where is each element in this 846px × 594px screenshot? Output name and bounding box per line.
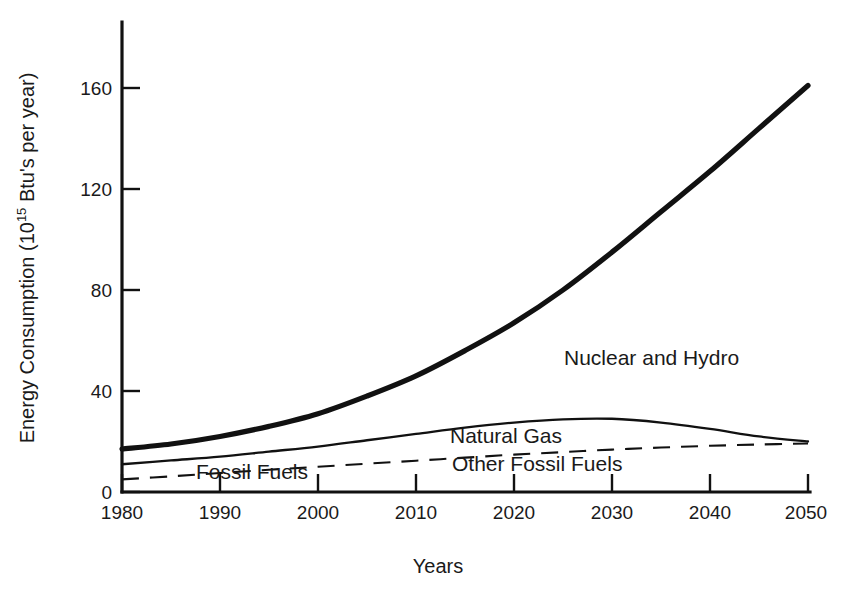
- x-tick-label-2010: 2010: [395, 502, 437, 523]
- x-tick-label-2030: 2030: [591, 502, 633, 523]
- y-axis-title: Energy Consumption (1015 Btu's per year): [14, 73, 38, 444]
- series-annotation-fossil-fuels: Fossil Fuels: [196, 460, 308, 483]
- series-annotation-natural-gas: Natural Gas: [450, 424, 562, 447]
- energy-consumption-chart: 160 120 80 40 0 1980 1990 2000 2010 2020…: [0, 0, 846, 594]
- y-tick-label-160: 160: [80, 78, 112, 99]
- series-line-nuclear-and-hydro: [122, 85, 808, 449]
- x-tick-label-2020: 2020: [493, 502, 535, 523]
- x-tick-label-2050: 2050: [785, 502, 827, 523]
- series-annotation-nuclear-and-hydro: Nuclear and Hydro: [564, 346, 739, 369]
- y-tick-label-40: 40: [91, 381, 112, 402]
- x-tick-label-2000: 2000: [297, 502, 339, 523]
- x-axis-title: Years: [413, 555, 463, 577]
- y-axis-title-post: Btu's per year): [16, 73, 38, 208]
- y-axis-title-exponent: 15: [14, 208, 29, 222]
- y-axis-title-pre: Energy Consumption (10: [16, 222, 38, 443]
- y-tick-label-80: 80: [91, 280, 112, 301]
- x-tick-label-2040: 2040: [689, 502, 731, 523]
- chart-plot-area: 160 120 80 40 0 1980 1990 2000 2010 2020…: [0, 0, 846, 594]
- x-tick-label-1990: 1990: [199, 502, 241, 523]
- y-tick-label-0: 0: [101, 482, 112, 503]
- series-annotation-other-fossil-fuels: Other Fossil Fuels: [452, 452, 622, 475]
- y-tick-label-120: 120: [80, 179, 112, 200]
- x-tick-label-1980: 1980: [101, 502, 143, 523]
